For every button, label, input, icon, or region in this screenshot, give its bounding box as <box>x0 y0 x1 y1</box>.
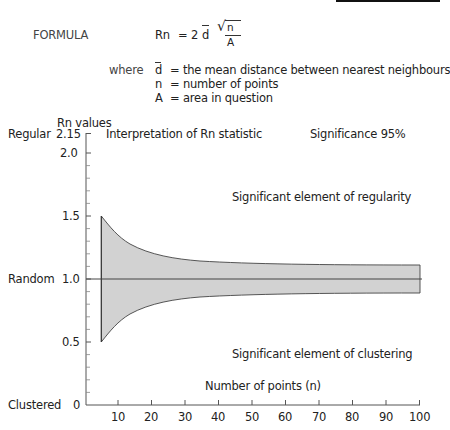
category-clustered: Clustered <box>8 398 61 412</box>
x-tick-label: 10 <box>111 410 125 424</box>
chart-title: Interpretation of Rn statistic <box>106 127 262 141</box>
y-major-ticks <box>86 153 91 342</box>
category-regular: Regular <box>8 127 51 141</box>
annotation-clustering: Significant element of clustering <box>232 347 412 361</box>
y-tick-label: 2.15 <box>56 127 81 141</box>
y-tick-label: 1.5 <box>62 209 80 223</box>
category-random: Random <box>8 272 54 286</box>
x-ticks <box>118 400 420 405</box>
y-tick-label: 1.0 <box>62 272 80 286</box>
x-tick-label: 30 <box>178 410 192 424</box>
chart-subtitle: Significance 95% <box>310 127 406 141</box>
x-tick-label: 40 <box>211 410 225 424</box>
x-tick-label: 100 <box>409 410 430 424</box>
x-tick-label: 90 <box>379 410 393 424</box>
x-axis-title: Number of points (n) <box>205 379 321 393</box>
annotation-regularity: Significant element of regularity <box>232 190 411 204</box>
y-tick-label: 0.5 <box>62 335 80 349</box>
x-tick-label: 80 <box>345 410 359 424</box>
x-tick-label: 50 <box>245 410 259 424</box>
x-tick-label: 60 <box>278 410 292 424</box>
x-tick-label: 70 <box>312 410 326 424</box>
y-tick-label: 2.0 <box>60 146 78 160</box>
x-tick-label: 20 <box>144 410 158 424</box>
y-tick-label: 0 <box>73 398 80 412</box>
